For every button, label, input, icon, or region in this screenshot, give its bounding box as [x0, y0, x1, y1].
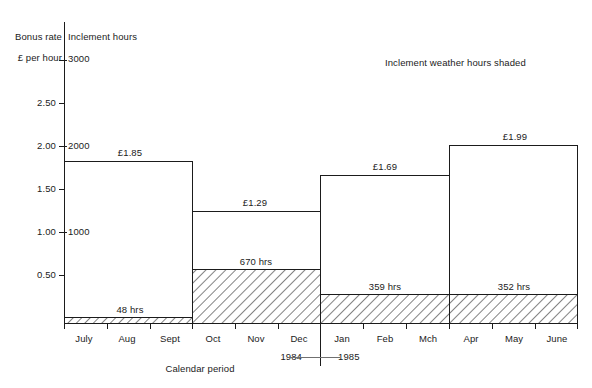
- inclement-band-period-2: [193, 270, 321, 324]
- inclement-band-period-1: [65, 318, 193, 324]
- chart-canvas: [0, 0, 592, 388]
- inclement-band-period-3: [321, 295, 450, 324]
- inclement-band-period-4: [450, 295, 578, 324]
- bonus-rate-chart: Bonus rate £ per hour Inclement hours In…: [0, 0, 592, 388]
